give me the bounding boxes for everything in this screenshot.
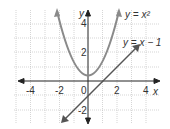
y-axis-down-arrow-icon <box>86 118 91 124</box>
y-tick-4: 4 <box>81 18 87 29</box>
x-tick-m2: -2 <box>55 85 64 96</box>
x-axis-label: x <box>152 86 159 97</box>
y-axis-up-arrow-icon <box>86 10 91 16</box>
line-label: y = x − 1 <box>122 37 161 48</box>
grid <box>14 10 160 124</box>
x-tick-2: 2 <box>114 85 120 96</box>
y-tick-2: 2 <box>81 47 87 58</box>
y-axis-label: y <box>78 8 85 19</box>
y-tick-m2: -2 <box>78 105 87 116</box>
origin-label: 0 <box>81 85 87 96</box>
x-tick-4: 4 <box>143 85 149 96</box>
parabola-left-arrow-icon <box>54 8 60 17</box>
x-axis-right-arrow-icon <box>154 79 160 84</box>
line-graph <box>64 47 137 120</box>
graph: -4 -2 0 2 4 x 4 2 -2 y y = x² y = x − 1 <box>0 0 170 129</box>
x-axis-left-arrow-icon <box>18 79 24 84</box>
parabola-label: y = x² <box>124 9 150 20</box>
x-tick-m4: -4 <box>26 85 35 96</box>
